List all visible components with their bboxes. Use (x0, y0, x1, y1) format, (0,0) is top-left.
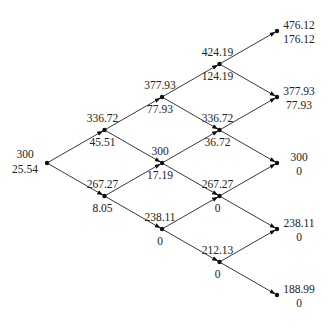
node-value-label: 476.12 (283, 19, 315, 31)
node-option-label: 124.19 (202, 70, 234, 82)
tree-node-3-3 (217, 260, 221, 264)
tree-node-3-2 (217, 194, 221, 198)
node-value-label: 377.93 (283, 85, 315, 97)
node-value-label: 238.11 (144, 211, 175, 223)
tree-node-3-0 (217, 62, 221, 66)
tree-node-4-4 (275, 293, 279, 297)
node-option-label: 77.93 (147, 103, 173, 115)
tree-node-3-1 (217, 128, 221, 132)
node-option-label: 17.19 (147, 169, 173, 181)
node-option-label: 0 (296, 231, 302, 243)
tree-node-4-0 (275, 29, 279, 33)
node-value-label: 267.27 (87, 178, 119, 190)
tree-node-1-0 (102, 128, 106, 132)
node-option-label: 0 (296, 297, 302, 309)
node-value-label: 300 (290, 151, 308, 163)
node-option-label: 0 (215, 268, 221, 280)
node-option-label: 77.93 (286, 99, 312, 111)
tree-node-0-0 (45, 161, 49, 165)
node-option-label: 0 (296, 165, 302, 177)
node-value-label: 238.11 (283, 217, 314, 229)
node-option-label: 8.05 (92, 202, 112, 214)
edge-down-3-3 (220, 262, 276, 294)
tree-node-2-2 (160, 227, 164, 231)
nodes (45, 29, 279, 297)
node-value-label: 188.99 (283, 283, 315, 295)
node-option-label: 25.54 (12, 163, 38, 175)
node-value-label: 300 (16, 148, 34, 160)
tree-node-1-1 (102, 194, 106, 198)
node-value-label: 336.72 (87, 112, 119, 124)
tree-node-2-0 (160, 95, 164, 99)
tree-node-4-1 (275, 95, 279, 99)
node-value-label: 212.13 (202, 244, 234, 256)
node-option-label: 0 (215, 202, 221, 214)
node-value-label: 424.19 (202, 46, 234, 58)
binomial-tree-diagram: 30025.54336.7245.51267.278.05377.9377.93… (0, 0, 330, 329)
node-value-label: 377.93 (144, 79, 176, 91)
tree-node-4-3 (275, 227, 279, 231)
node-option-label: 176.12 (283, 33, 315, 45)
node-option-label: 45.51 (90, 136, 116, 148)
node-value-label: 267.27 (202, 178, 234, 190)
tree-node-4-2 (275, 161, 279, 165)
node-option-label: 0 (157, 235, 163, 247)
tree-node-2-1 (160, 161, 164, 165)
node-value-label: 300 (151, 145, 169, 157)
node-value-label: 336.72 (202, 112, 234, 124)
edge-down-3-2 (220, 196, 276, 228)
node-option-label: 36.72 (205, 136, 231, 148)
